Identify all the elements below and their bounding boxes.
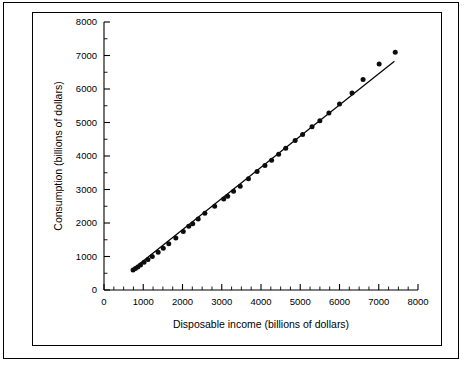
data-point xyxy=(269,158,274,163)
x-axis: 010002000300040005000600070008000 xyxy=(101,284,428,307)
data-point xyxy=(190,221,195,226)
data-point xyxy=(326,111,331,116)
data-point xyxy=(161,246,166,251)
data-point xyxy=(283,146,288,151)
data-point xyxy=(317,118,322,123)
x-tick-label: 1000 xyxy=(133,296,154,307)
data-point xyxy=(293,138,298,143)
y-tick-label: 1000 xyxy=(76,251,97,262)
data-point xyxy=(196,216,201,221)
data-point xyxy=(361,77,366,82)
data-point xyxy=(238,184,243,189)
data-point xyxy=(300,132,305,137)
chart-canvas: 010002000300040005000600070008000 010002… xyxy=(0,0,464,365)
y-tick-label: 3000 xyxy=(76,184,97,195)
data-point xyxy=(276,152,281,157)
data-point xyxy=(225,194,230,199)
x-tick-label: 6000 xyxy=(329,296,350,307)
x-tick-label: 0 xyxy=(101,296,106,307)
data-point xyxy=(262,163,267,168)
data-point xyxy=(181,229,186,234)
data-point xyxy=(145,257,150,262)
data-point xyxy=(246,176,251,181)
x-tick-label: 7000 xyxy=(368,296,389,307)
data-point xyxy=(377,61,382,66)
data-point xyxy=(166,241,171,246)
data-point xyxy=(337,102,342,107)
y-tick-label: 2000 xyxy=(76,217,97,228)
data-point xyxy=(350,91,355,96)
data-point xyxy=(212,204,217,209)
scatter-chart: 010002000300040005000600070008000 010002… xyxy=(0,0,464,365)
y-tick-label: 7000 xyxy=(76,50,97,61)
y-tick-label: 4000 xyxy=(76,150,97,161)
data-point xyxy=(255,169,260,174)
data-point xyxy=(231,189,236,194)
data-point xyxy=(310,124,315,129)
y-tick-label: 8000 xyxy=(76,16,97,27)
data-point xyxy=(393,50,398,55)
x-tick-label: 8000 xyxy=(407,296,428,307)
x-tick-label: 2000 xyxy=(172,296,193,307)
y-axis-title: Consumption (billions of dollars) xyxy=(52,81,64,230)
y-tick-label: 5000 xyxy=(76,117,97,128)
data-point xyxy=(173,236,178,241)
x-tick-label: 4000 xyxy=(250,296,271,307)
data-point xyxy=(156,250,161,255)
x-axis-title: Disposable income (billions of dollars) xyxy=(173,318,349,330)
data-point xyxy=(202,211,207,216)
y-axis: 010002000300040005000600070008000 xyxy=(76,16,110,295)
x-tick-label: 5000 xyxy=(290,296,311,307)
data-point xyxy=(150,254,155,259)
y-tick-label: 6000 xyxy=(76,83,97,94)
y-tick-label: 0 xyxy=(92,284,97,295)
x-tick-label: 3000 xyxy=(211,296,232,307)
